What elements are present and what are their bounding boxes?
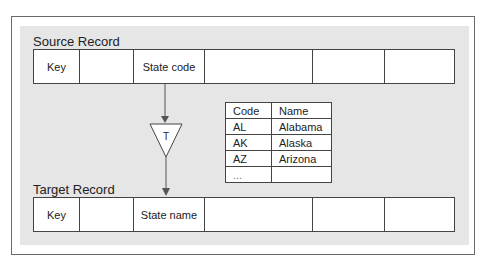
table-row: AZ Arizona [226,151,332,167]
target-field-4 [205,198,313,231]
lookup-table: Code Name AL Alabama AK Alaska AZ Arizon… [225,102,332,183]
cell-name: Arizona [272,151,332,167]
transform-label: T [159,131,173,142]
table-row: AL Alabama [226,119,332,135]
header-code: Code [226,103,272,119]
target-field-5 [313,198,385,231]
table-header-row: Code Name [226,103,332,119]
arrow-down-icon [162,188,170,196]
table-row: ... [226,167,332,183]
cell-name: Alabama [272,119,332,135]
target-record-label: Target Record [33,182,115,197]
cell-name: Alaska [272,135,332,151]
target-field-6 [385,198,454,231]
cell-code: AZ [226,151,272,167]
target-field-key: Key [34,198,80,231]
cell-name [272,167,332,183]
target-field-2 [80,198,134,231]
target-field-state-name: State name [134,198,205,231]
cell-code: AL [226,119,272,135]
header-name: Name [272,103,332,119]
target-record: Key State name [33,197,455,232]
arrow-down-icon [161,116,169,123]
cell-code: ... [226,167,272,183]
cell-code: AK [226,135,272,151]
table-row: AK Alaska [226,135,332,151]
